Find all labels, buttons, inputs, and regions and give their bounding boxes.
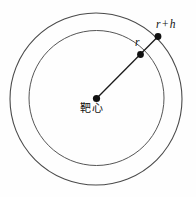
target-circles-diagram: r+h r 靶心: [0, 0, 196, 197]
center-point-dot: [93, 95, 100, 102]
diagram-canvas: [0, 0, 196, 197]
outer-radius-point-dot: [155, 33, 162, 40]
inner-radius-point-dot: [137, 51, 144, 58]
radius-line: [97, 37, 159, 99]
